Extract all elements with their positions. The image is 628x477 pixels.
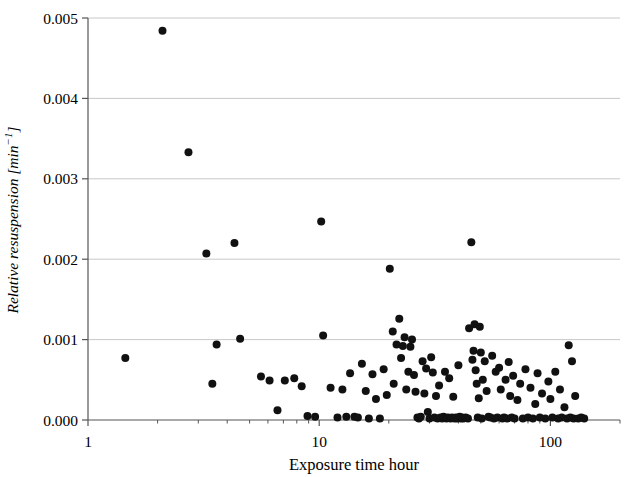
data-point xyxy=(488,352,496,360)
data-point xyxy=(346,369,354,377)
data-point xyxy=(513,396,521,404)
data-point xyxy=(505,358,513,366)
data-point xyxy=(427,353,435,361)
data-point xyxy=(236,335,244,343)
data-point xyxy=(376,414,384,422)
data-point xyxy=(319,332,327,340)
data-point xyxy=(334,414,342,422)
data-point xyxy=(368,370,376,378)
data-point xyxy=(546,395,554,403)
data-point xyxy=(311,413,319,421)
data-point xyxy=(410,371,418,379)
data-point xyxy=(544,377,552,385)
data-point xyxy=(266,377,274,385)
data-point xyxy=(304,412,312,420)
x-axis-label: Exposure time hour xyxy=(289,455,420,474)
data-point xyxy=(506,392,514,400)
data-point xyxy=(479,376,487,384)
data-point xyxy=(230,239,238,247)
tick-marks xyxy=(82,18,620,426)
data-points xyxy=(121,27,588,423)
data-point xyxy=(402,385,410,393)
data-point xyxy=(290,374,298,382)
data-point xyxy=(213,340,221,348)
data-point xyxy=(472,366,480,374)
data-point xyxy=(556,385,564,393)
data-point xyxy=(386,265,394,273)
data-point xyxy=(511,414,519,422)
data-point xyxy=(468,356,476,364)
data-point xyxy=(354,414,362,422)
data-point xyxy=(478,414,486,422)
data-point xyxy=(159,27,167,35)
data-point xyxy=(298,382,306,390)
y-tick-label: 0.000 xyxy=(43,412,78,429)
data-point xyxy=(509,372,517,380)
data-point xyxy=(389,328,397,336)
data-point xyxy=(399,342,407,350)
data-point xyxy=(342,413,350,421)
data-point xyxy=(541,414,549,422)
data-point xyxy=(483,387,491,395)
data-point xyxy=(467,238,475,246)
data-point xyxy=(422,365,430,373)
data-point xyxy=(534,369,542,377)
data-point xyxy=(362,387,370,395)
data-point xyxy=(538,389,546,397)
data-point xyxy=(464,414,472,422)
data-point xyxy=(417,413,425,421)
data-point xyxy=(429,369,437,377)
data-point xyxy=(454,361,462,369)
data-point xyxy=(565,341,573,349)
data-point xyxy=(529,414,537,422)
data-point xyxy=(497,385,505,393)
data-point xyxy=(281,377,289,385)
data-point xyxy=(571,392,579,400)
data-point xyxy=(502,376,510,384)
data-point xyxy=(475,394,483,402)
data-point xyxy=(397,354,405,362)
data-point xyxy=(477,348,485,356)
data-point xyxy=(408,336,416,344)
y-tick-label: 0.001 xyxy=(43,331,78,348)
x-tick-label: 100 xyxy=(539,433,563,450)
data-point xyxy=(406,343,414,351)
data-point xyxy=(257,373,265,381)
data-point xyxy=(560,403,568,411)
data-point xyxy=(121,354,129,362)
data-point xyxy=(476,323,484,331)
data-point xyxy=(327,384,335,392)
data-point xyxy=(383,391,391,399)
data-point xyxy=(419,357,427,365)
data-point xyxy=(395,315,403,323)
data-point xyxy=(470,347,478,355)
data-point xyxy=(358,360,366,368)
data-point xyxy=(516,380,524,388)
grid-lines xyxy=(88,18,620,340)
data-point xyxy=(445,374,453,382)
data-point xyxy=(521,365,529,373)
data-point xyxy=(420,389,428,397)
y-axis-label: Relative resuspension [min−1] xyxy=(2,126,21,314)
data-point xyxy=(317,217,325,225)
data-point xyxy=(449,393,457,401)
data-point xyxy=(338,385,346,393)
data-point xyxy=(531,400,539,408)
data-point xyxy=(481,357,489,365)
data-point xyxy=(495,364,503,372)
data-point xyxy=(365,414,373,422)
y-tick-label: 0.005 xyxy=(43,10,78,27)
y-tick-label: 0.003 xyxy=(43,170,78,187)
data-point xyxy=(273,406,281,414)
x-tick-label: 1 xyxy=(84,433,92,450)
data-point xyxy=(184,148,192,156)
scatter-chart-figure: 0.0000.0010.0020.0030.0040.005110100 Exp… xyxy=(0,0,628,477)
data-point xyxy=(380,365,388,373)
data-point xyxy=(208,380,216,388)
data-point xyxy=(580,414,588,422)
data-point xyxy=(568,357,576,365)
data-point xyxy=(401,333,409,341)
data-point xyxy=(202,250,210,258)
y-tick-label: 0.002 xyxy=(43,251,78,268)
data-point xyxy=(551,368,559,376)
